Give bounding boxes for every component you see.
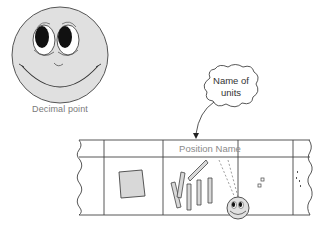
square-shape (119, 170, 145, 198)
torn-edge-right (308, 140, 312, 215)
tiny-square (258, 184, 261, 187)
small-smiley-face-icon (227, 197, 249, 219)
small-dots (296, 171, 301, 187)
callout-arrow-icon (196, 102, 214, 134)
callout-line-1: Name of (203, 75, 259, 87)
scattered-bars (171, 160, 212, 210)
arrow-head-icon (193, 133, 199, 139)
callout-line-2: units (203, 87, 259, 99)
torn-edge-left (77, 140, 82, 215)
big-smiley-face-icon (12, 7, 108, 103)
diagram-canvas (0, 0, 325, 235)
tiny-square (261, 178, 264, 181)
decimal-point-caption: Decimal point (0, 104, 120, 114)
callout-text: Name of units (203, 75, 259, 99)
position-name-header: Position Name (164, 143, 256, 154)
